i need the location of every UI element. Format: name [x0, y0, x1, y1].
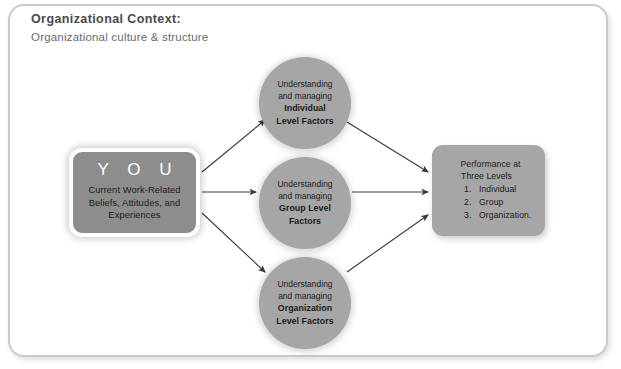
performance-item-label: Group: [479, 196, 503, 209]
header-subtitle: Organizational culture & structure: [31, 30, 461, 45]
you-description: Current Work-Related Beliefs, Attitudes,…: [88, 184, 180, 222]
performance-item-number: 2.: [464, 196, 479, 209]
performance-item-label: Organization.: [479, 209, 531, 222]
circle-organization-level-factors: Understanding and managing Organization …: [259, 257, 351, 349]
diagram-canvas: Organizational Context: Organizational c…: [0, 0, 621, 369]
circle-line-bold: Individual: [284, 102, 326, 114]
circle-line: Understanding: [277, 179, 332, 191]
circle-line: Understanding: [277, 79, 332, 91]
circle-line-bold: Level Factors: [276, 315, 333, 327]
performance-item-number: 3.: [464, 209, 479, 222]
performance-title-line2: Three Levels: [442, 170, 539, 182]
performance-item-label: Individual: [479, 183, 516, 196]
performance-item-number: 1.: [464, 183, 479, 196]
circle-group-level-factors: Understanding and managing Group Level F…: [259, 157, 351, 249]
header-title: Organizational Context:: [31, 11, 461, 28]
you-title: Y O U: [91, 161, 179, 180]
performance-list-item: 2. Group: [464, 196, 539, 209]
diagram-header: Organizational Context: Organizational c…: [31, 11, 461, 45]
you-box: Y O U Current Work-Related Beliefs, Atti…: [69, 148, 200, 237]
performance-box: Performance at Three Levels 1. Individua…: [432, 145, 545, 236]
you-description-line: Beliefs, Attitudes, and: [89, 198, 181, 208]
circle-line-bold: Level Factors: [276, 115, 333, 127]
circle-line: and managing: [278, 191, 332, 203]
circle-line-bold: Organization: [278, 302, 332, 314]
circle-individual-level-factors: Understanding and managing Individual Le…: [259, 57, 351, 149]
you-description-line: Experiences: [108, 210, 160, 220]
you-description-line: Current Work-Related: [88, 185, 180, 195]
circle-line-bold: Factors: [289, 215, 321, 227]
circle-line: Understanding: [277, 279, 332, 291]
performance-list-item: 3. Organization.: [464, 209, 539, 222]
circle-line-bold: Group Level: [279, 202, 331, 214]
circle-line: and managing: [278, 91, 332, 103]
performance-level-list: 1. Individual 2. Group 3. Organization.: [442, 183, 539, 222]
performance-list-item: 1. Individual: [464, 183, 539, 196]
circle-line: and managing: [278, 291, 332, 303]
performance-title-line1: Performance at: [442, 158, 539, 170]
